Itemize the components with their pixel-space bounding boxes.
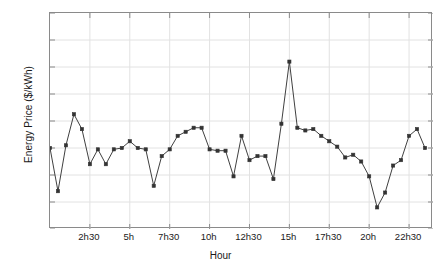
data-point-marker [176, 134, 179, 137]
data-point-marker [423, 146, 426, 149]
data-point-marker [336, 145, 339, 148]
x-axis-title: Hour [0, 250, 441, 261]
data-point-marker [136, 146, 139, 149]
data-point-marker [312, 128, 315, 131]
data-point-marker [360, 160, 363, 163]
data-point-marker [320, 134, 323, 137]
data-point-marker [216, 149, 219, 152]
data-point-marker [296, 126, 299, 129]
data-point-marker [288, 60, 291, 63]
series-canvas [50, 13, 433, 229]
data-point-marker [407, 134, 410, 137]
data-point-marker [272, 177, 275, 180]
data-point-marker [184, 130, 187, 133]
data-point-marker [376, 206, 379, 209]
data-point-marker [192, 126, 195, 129]
data-point-marker [144, 148, 147, 151]
data-point-marker [112, 148, 115, 151]
data-point-marker [120, 146, 123, 149]
data-point-marker [72, 113, 75, 116]
data-point-marker [384, 191, 387, 194]
data-point-marker [50, 146, 52, 149]
data-point-marker [399, 159, 402, 162]
data-point-marker [248, 159, 251, 162]
data-point-marker [344, 156, 347, 159]
data-point-marker [96, 148, 99, 151]
data-point-marker [104, 163, 107, 166]
data-point-marker [240, 134, 243, 137]
data-point-marker [368, 175, 371, 178]
data-point-marker [64, 144, 67, 147]
data-point-marker [304, 129, 307, 132]
data-point-marker [232, 175, 235, 178]
data-point-marker [415, 128, 418, 131]
data-point-marker [280, 122, 283, 125]
data-point-marker [328, 140, 331, 143]
plot-area [49, 12, 432, 228]
data-point-marker [88, 163, 91, 166]
data-point-marker [168, 148, 171, 151]
data-point-marker [128, 140, 131, 143]
data-point-marker [264, 155, 267, 158]
data-point-marker [208, 148, 211, 151]
data-point-marker [392, 164, 395, 167]
data-point-marker [56, 190, 59, 193]
x-tick-label: 22h30 [378, 231, 438, 242]
data-point-marker [200, 126, 203, 129]
data-point-marker [80, 128, 83, 131]
data-point-marker [160, 155, 163, 158]
data-point-marker [352, 153, 355, 156]
chart-figure: Energy Price ($/kWh) 0.20.30.40.50.60.70… [0, 0, 441, 274]
data-point-marker [152, 184, 155, 187]
data-point-marker [256, 155, 259, 158]
data-point-marker [224, 149, 227, 152]
